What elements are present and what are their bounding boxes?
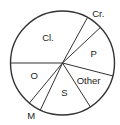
slice-label-o: O	[31, 70, 38, 81]
slice-label-other: Other	[77, 75, 101, 86]
slice-label-cl: Cl.	[42, 32, 54, 43]
slice-label-cr: Cr.	[92, 8, 104, 19]
slice-label-m: M	[27, 110, 35, 121]
pie-chart: Cl.Cr.POtherSMO	[0, 0, 120, 125]
slice-label-s: S	[61, 87, 67, 98]
slice-label-p: P	[91, 48, 97, 59]
